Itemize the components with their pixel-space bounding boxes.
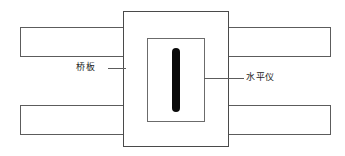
beam-bottom-left [20, 105, 125, 135]
leader-line-level-instrument [204, 78, 244, 79]
bubble-vial [172, 48, 180, 112]
label-level-instrument: 水平仪 [246, 72, 275, 83]
beam-top-right [226, 27, 331, 57]
leader-line-bridge-plate [108, 68, 126, 69]
diagram-canvas: 桥板 水平仪 [0, 0, 345, 156]
beam-bottom-right [226, 105, 331, 135]
label-bridge-plate: 桥板 [76, 62, 95, 73]
beam-top-left [20, 27, 125, 57]
